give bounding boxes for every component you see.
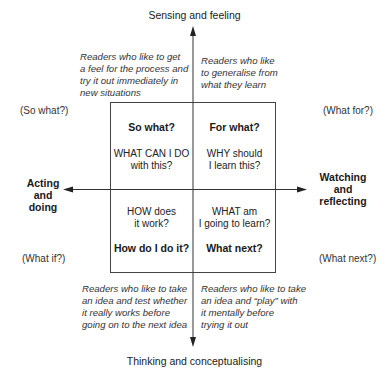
reader-desc-bottom-right: Readers who like to take an idea and “pl… xyxy=(201,283,306,331)
reader-desc-bottom-left: Readers who like to take an idea and tes… xyxy=(82,283,187,331)
quadrant-title-bottom-left: How do I do it? xyxy=(110,242,193,254)
quadrant-title-top-right: For what? xyxy=(193,121,276,133)
corner-question-top-right: (What for?) xyxy=(323,105,373,116)
quadrant-title-bottom-right: What next? xyxy=(193,242,276,254)
reader-desc-top-left: Readers who like to get a feel for the p… xyxy=(80,51,188,99)
quadrant-text-bottom-right: WHAT am I going to learn? xyxy=(193,206,276,230)
corner-question-bottom-left: (What if?) xyxy=(22,253,65,264)
axis-label-right: Watching and reflecting xyxy=(310,171,376,207)
quadrant-title-top-left: So what? xyxy=(110,121,193,133)
quadrant-text-top-right: WHY should I learn this? xyxy=(193,148,276,172)
axis-label-top: Sensing and feeling xyxy=(0,9,389,21)
corner-question-bottom-right: (What next?) xyxy=(319,253,376,264)
arrow-up-icon xyxy=(190,26,196,36)
axis-label-left: Acting and doing xyxy=(22,177,64,213)
quadrant-text-bottom-left: HOW does it work? xyxy=(110,206,193,230)
axis-label-bottom: Thinking and conceptualising xyxy=(0,355,389,367)
corner-question-top-left: (So what?) xyxy=(20,105,68,116)
reader-desc-top-right: Readers who like to generalise from what… xyxy=(201,55,278,91)
arrow-down-icon xyxy=(190,337,196,347)
arrow-left-icon xyxy=(63,187,73,193)
quadrant-text-top-left: WHAT CAN I DO with this? xyxy=(110,148,193,172)
arrow-right-icon xyxy=(297,187,307,193)
